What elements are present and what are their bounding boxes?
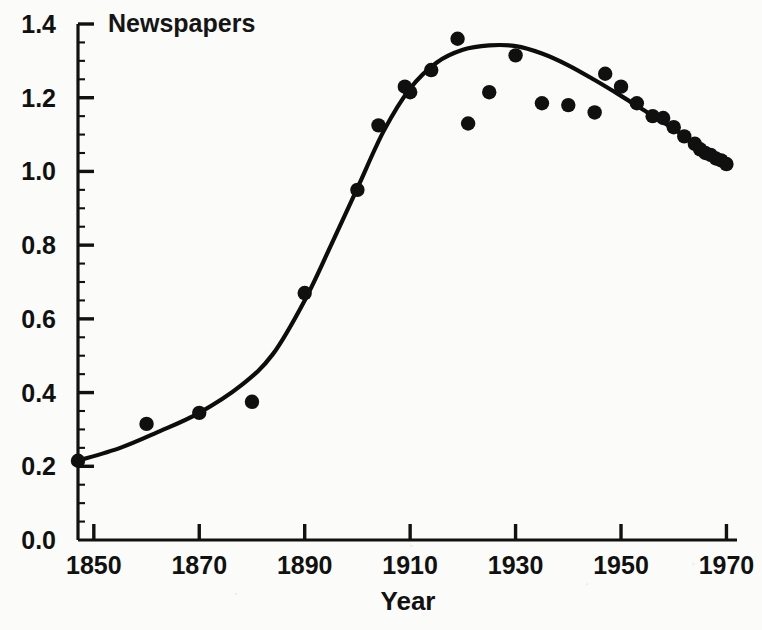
chart-figure: 0.00.20.40.60.81.01.21.4 185018701890191…	[0, 0, 762, 630]
y-tick-label: 1.2	[21, 84, 56, 112]
x-axis-title: Year	[381, 586, 436, 616]
data-point	[350, 183, 364, 197]
newspapers-scatter-chart: 0.00.20.40.60.81.01.21.4 185018701890191…	[0, 0, 762, 630]
data-point	[245, 395, 259, 409]
fitted-trend-curve	[78, 45, 726, 461]
y-axis-major-ticks	[78, 24, 94, 466]
x-axis-tick-labels: 1850187018901910193019501970	[66, 551, 754, 579]
data-point	[587, 105, 601, 119]
data-point	[614, 79, 628, 93]
data-point	[719, 157, 733, 171]
data-point	[508, 48, 522, 62]
y-tick-label: 0.4	[21, 379, 56, 407]
x-tick-label: 1930	[488, 551, 544, 579]
data-point	[561, 98, 575, 112]
data-point	[424, 63, 438, 77]
y-axis-tick-labels: 0.00.20.40.60.81.01.21.4	[21, 10, 56, 554]
y-tick-label: 0.2	[21, 452, 56, 480]
data-point	[598, 67, 612, 81]
x-tick-label: 1870	[171, 551, 227, 579]
x-tick-label: 1890	[277, 551, 333, 579]
data-point	[630, 96, 644, 110]
x-tick-label: 1850	[66, 551, 122, 579]
y-tick-label: 0.0	[21, 526, 56, 554]
x-tick-label: 1950	[593, 551, 649, 579]
y-tick-label: 1.0	[21, 157, 56, 185]
y-tick-label: 0.8	[21, 231, 56, 259]
data-point	[482, 85, 496, 99]
data-point	[371, 118, 385, 132]
data-point	[450, 32, 464, 46]
data-point	[461, 116, 475, 130]
y-tick-label: 0.6	[21, 305, 56, 333]
x-tick-label: 1970	[699, 551, 755, 579]
data-point	[192, 406, 206, 420]
data-point	[535, 96, 549, 110]
data-point	[71, 454, 85, 468]
chart-title: Newspapers	[108, 9, 255, 37]
data-point	[298, 286, 312, 300]
y-tick-label: 1.4	[21, 10, 56, 38]
x-tick-label: 1910	[382, 551, 438, 579]
y-axis: 0.00.20.40.60.81.01.21.4	[21, 10, 94, 554]
x-axis: 1850187018901910193019501970	[66, 524, 754, 579]
x-axis-major-ticks	[94, 524, 727, 540]
data-point	[403, 85, 417, 99]
data-point	[139, 417, 153, 431]
